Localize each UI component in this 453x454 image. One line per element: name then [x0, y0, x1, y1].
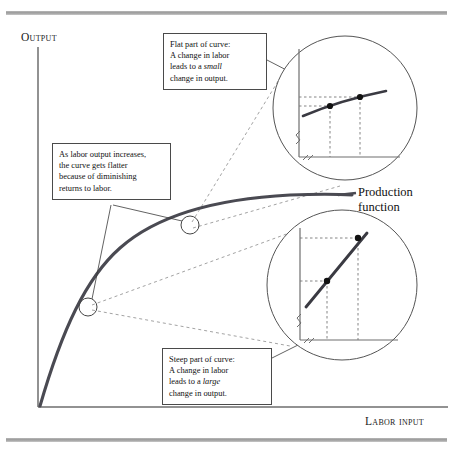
callout-steep-line3: leads to a large [169, 376, 265, 387]
steep-inset-point-2 [355, 235, 361, 241]
flat-point-marker [181, 216, 199, 234]
callout-flat-emphasis: small [204, 62, 222, 71]
callout-dim-line2: the curve gets flatter [59, 160, 164, 171]
steep-point-marker [79, 298, 97, 316]
callout-steep-line1: Steep part of curve: [169, 354, 265, 365]
flat-magnifier-ring [273, 36, 417, 180]
callout-dim-line4: returns to labor. [59, 183, 164, 194]
steep-connector-lower [92, 310, 290, 346]
flat-magnifier [273, 36, 417, 180]
flat-inset-point-1 [327, 103, 333, 109]
callout-diminishing-returns: As labor output increases, the curve get… [52, 143, 171, 200]
callout-flat-line3-pre: leads to a [170, 62, 204, 71]
steep-magnifier-ring [267, 210, 417, 360]
production-function-figure: Output Labor input Production function F… [0, 0, 453, 454]
production-function-label-line1: Production [358, 185, 413, 200]
y-axis-label: Output [21, 31, 57, 43]
callout-steep-line2: A change in labor [169, 365, 265, 376]
leader-to-steep-point [92, 205, 111, 299]
x-axis-label: Labor input [365, 415, 424, 427]
steep-inset-point-1 [324, 278, 330, 284]
steep-magnifier-connectors [92, 232, 292, 346]
production-function-label: Production function [358, 185, 413, 214]
flat-inset-point-2 [357, 94, 363, 100]
callout-steep-part: Steep part of curve: A change in labor l… [162, 348, 272, 405]
callout-flat-part: Flat part of curve: A change in labor le… [163, 33, 267, 90]
callout-steep-emphasis: large [203, 377, 220, 386]
steep-connector-upper [92, 232, 292, 305]
callout-steep-line4: change in output. [169, 388, 265, 399]
callout-flat-line3: leads to a small [170, 61, 260, 72]
steep-magnifier [267, 210, 417, 360]
callout-flat-line1: Flat part of curve: [170, 39, 260, 50]
leader-to-flat-point [113, 205, 182, 221]
callout-flat-line4: change in output. [170, 73, 260, 84]
callout-dim-line3: because of diminishing [59, 171, 164, 182]
callout-steep-line3-pre: leads to a [169, 377, 203, 386]
callout-dim-line1: As labor output increases, [59, 149, 164, 160]
callout-flat-line2: A change in labor [170, 50, 260, 61]
production-function-label-line2: function [358, 200, 413, 215]
